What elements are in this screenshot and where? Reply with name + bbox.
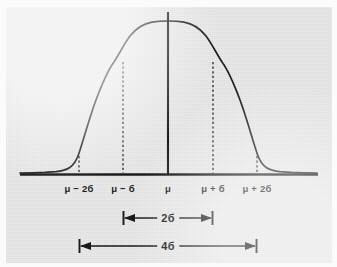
- axis-label-mean: μ: [165, 183, 171, 194]
- axis-label-plus-2-sigma: μ + 2б: [243, 183, 272, 194]
- dimension-label-two-sigma: 2б: [157, 212, 179, 224]
- axis-label-plus-1-sigma: μ + б: [201, 183, 225, 194]
- page-margin-top: [0, 0, 337, 7]
- axis-label-minus-2-sigma: μ − 2б: [65, 183, 94, 194]
- two-sigma-arrowhead-right: [201, 214, 212, 222]
- two-sigma-arrowhead-left: [124, 214, 135, 222]
- page-margin-right: [332, 0, 337, 267]
- normal-distribution-figure: μ − 2б μ − б μ μ + б μ + 2б 2б 4б: [0, 0, 337, 267]
- four-sigma-arrowhead-left: [80, 242, 91, 250]
- page-margin-bottom: [0, 263, 337, 267]
- four-sigma-arrowhead-right: [245, 242, 256, 250]
- page-margin-left: [0, 0, 6, 267]
- distribution-chart-canvas: [0, 0, 337, 267]
- axis-label-minus-1-sigma: μ − б: [111, 183, 135, 194]
- dimension-label-four-sigma: 4б: [157, 240, 179, 252]
